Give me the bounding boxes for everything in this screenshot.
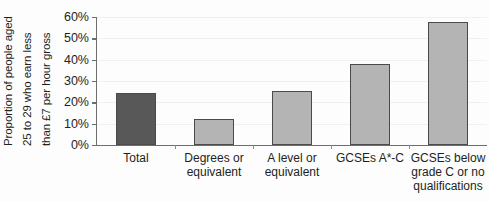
y-tick-label: 20% [64, 95, 89, 109]
y-tick-label: 50% [64, 31, 89, 45]
bar-chart-figure: Proportion of people aged 25 to 29 who e… [0, 0, 489, 202]
y-tick-label: 0% [71, 138, 89, 152]
y-tick-label: 40% [64, 53, 89, 67]
bar[interactable] [272, 91, 313, 145]
x-tick-mark [175, 145, 176, 149]
y-tick-label: 10% [64, 117, 89, 131]
y-tick-mark [92, 145, 97, 146]
bar[interactable] [350, 64, 391, 145]
y-axis-title-line-1: Proportion of people aged [2, 16, 14, 146]
x-axis-category-label: GCSEs A*-C [330, 151, 410, 165]
x-axis-category-label: Total [96, 151, 176, 165]
x-axis-category-label: GCSEs below grade C or no qualifications [408, 151, 488, 193]
y-tick-label: 30% [64, 74, 89, 88]
y-axis-title-line-2: 25 to 29 who earn less [21, 32, 33, 146]
bar[interactable] [428, 22, 469, 145]
x-tick-mark [409, 145, 410, 149]
x-axis-category-label: A level or equivalent [252, 151, 332, 179]
bar[interactable] [194, 119, 235, 145]
y-axis-title-line-3: than £7 per hour gross [40, 32, 52, 146]
x-axis-category-label: Degrees or equivalent [174, 151, 254, 179]
bars-layer [97, 17, 487, 145]
x-tick-mark [253, 145, 254, 149]
plot-area: 0%10%20%30%40%50%60% TotalDegrees or equ… [96, 17, 487, 146]
y-tick-label: 60% [64, 10, 89, 24]
x-tick-mark [331, 145, 332, 149]
bar[interactable] [116, 93, 157, 145]
